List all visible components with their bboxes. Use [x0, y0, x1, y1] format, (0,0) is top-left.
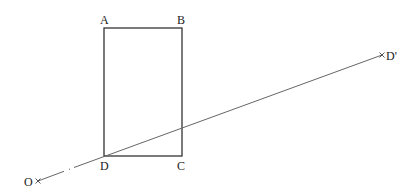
label-c: C — [177, 159, 185, 173]
label-o: O — [24, 175, 33, 189]
label-a: A — [100, 13, 109, 27]
diagram-canvas: A B C D O D' — [0, 0, 419, 195]
cross-mark-o-icon — [36, 179, 41, 184]
label-b: B — [177, 13, 185, 27]
label-d: D — [100, 159, 109, 173]
ray-segment-o — [38, 171, 64, 181]
rectangle-abcd — [104, 28, 182, 156]
cross-mark-d-prime-icon — [380, 53, 385, 58]
label-d-prime: D' — [386, 49, 397, 63]
ray-od-prime — [74, 55, 382, 168]
